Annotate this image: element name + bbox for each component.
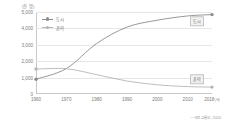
chart-container: (천 명) 01,0002,0003,0004,0005,000 1960197… (0, 0, 226, 123)
y-axis-unit-label: (천 명) (22, 3, 34, 9)
series-endpoint-marker (210, 13, 213, 16)
legend-label-rural: 촌락 (56, 25, 64, 31)
series-line-1 (36, 68, 212, 87)
legend-marker-rural-icon (42, 25, 53, 30)
x-axis-tick-label: 1960 (31, 97, 41, 102)
x-axis-unit-suffix: (년) (214, 98, 219, 102)
source-note: ─ 국토 교통부, 2020 (191, 115, 221, 120)
legend-label-city: 도시 (56, 16, 64, 22)
y-axis-tick-label: 3,000 (22, 42, 34, 47)
chart-annotation-label: 촌락 (190, 74, 204, 84)
legend-item-city: 도시 (42, 16, 64, 22)
x-axis-tick-label: 2010 (183, 97, 193, 102)
series-endpoint-marker (210, 85, 213, 88)
x-axis-tick-label: 1990 (122, 97, 132, 102)
y-axis-tick-label: 0 (30, 92, 33, 97)
x-axis-tick-label: 2000 (152, 97, 162, 102)
chart-legend: 도시 촌락 (42, 16, 64, 31)
series-endpoint-marker (34, 78, 37, 81)
chart-annotation-label: 도시 (190, 17, 204, 27)
x-axis-tick-label: 1980 (92, 97, 102, 102)
legend-item-rural: 촌락 (42, 25, 64, 31)
y-axis-tick-label: 5,000 (22, 10, 34, 15)
series-endpoint-marker (34, 67, 37, 70)
legend-marker-city-icon (42, 17, 53, 22)
y-axis-tick-label: 1,000 (22, 75, 34, 80)
y-axis-tick-label: 4,000 (22, 26, 34, 31)
x-axis-tick-label: 1970 (61, 97, 71, 102)
x-axis-tick-label: 2018(년) (204, 97, 220, 102)
plot-area: 01,0002,0003,0004,0005,000 1960197019801… (36, 12, 212, 94)
y-axis-tick-label: 2,000 (22, 59, 34, 64)
